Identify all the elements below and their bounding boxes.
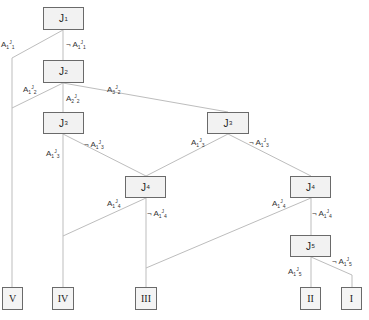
node-j2-sub: 2 <box>65 69 68 75</box>
node-j1-sub: 1 <box>65 16 68 22</box>
edge-j3b-to-j4b <box>228 134 311 176</box>
node-j2: J2 <box>43 60 84 83</box>
node-j1: J1 <box>43 7 84 30</box>
node-j3-right: J3 <box>207 112 249 134</box>
node-j3-left-sub: 3 <box>65 120 68 126</box>
node-j3-left: J3 <box>43 112 84 134</box>
edge-label: ¬ A1J4 <box>147 210 167 218</box>
edge-j2-to-j3b <box>63 83 228 112</box>
node-j4-right-sub: 4 <box>312 184 315 190</box>
node-j4-left-sub: 4 <box>147 184 150 190</box>
node-j4-left: J4 <box>125 176 166 198</box>
edge-label: A1J4 <box>272 200 285 208</box>
leaf-i: I <box>341 287 362 310</box>
edge-label: ¬ A1J5 <box>332 258 352 266</box>
edge-j4b-to-iii <box>146 198 311 268</box>
node-j4-right-label: J <box>306 182 311 193</box>
edge-label: A1J3 <box>191 139 204 147</box>
edge-j3b-to-j4a <box>146 134 228 176</box>
node-j3-right-label: J <box>224 118 229 129</box>
leaf-v: V <box>2 287 23 310</box>
edge-label: A2J2 <box>66 95 79 103</box>
edge-label: ¬ A1J3 <box>84 141 104 149</box>
node-j4-right: J4 <box>290 176 331 198</box>
edge-label: ¬ A1J3 <box>249 139 269 147</box>
edge-label: A1J1 <box>1 41 14 49</box>
node-j3-right-sub: 3 <box>229 120 232 126</box>
node-j5: J5 <box>290 235 331 257</box>
edge-label: A1J2 <box>23 86 36 94</box>
edge-label: A3J2 <box>107 86 120 94</box>
leaf-ii: II <box>300 287 321 310</box>
leaf-iv: IV <box>52 287 74 310</box>
node-j3-left-label: J <box>59 118 64 129</box>
edge-label: A1J4 <box>107 200 120 208</box>
tree-edges <box>0 0 369 320</box>
edge-label: A1J3 <box>46 150 59 158</box>
node-j2-label: J <box>59 66 64 77</box>
node-j1-label: J <box>59 13 64 24</box>
edge-label: A1J5 <box>288 268 301 276</box>
edge-label: ¬ A1J4 <box>312 210 332 218</box>
edge-j3a-to-j4a <box>63 134 146 176</box>
node-j5-label: J <box>306 241 311 252</box>
edge-j2-to-v <box>12 83 63 108</box>
node-j4-left-label: J <box>141 182 146 193</box>
edge-j4a-to-iv <box>63 198 146 236</box>
edge-label: ¬ A1J1 <box>66 41 86 49</box>
node-j5-sub: 5 <box>312 243 315 249</box>
leaf-iii: III <box>135 287 157 310</box>
